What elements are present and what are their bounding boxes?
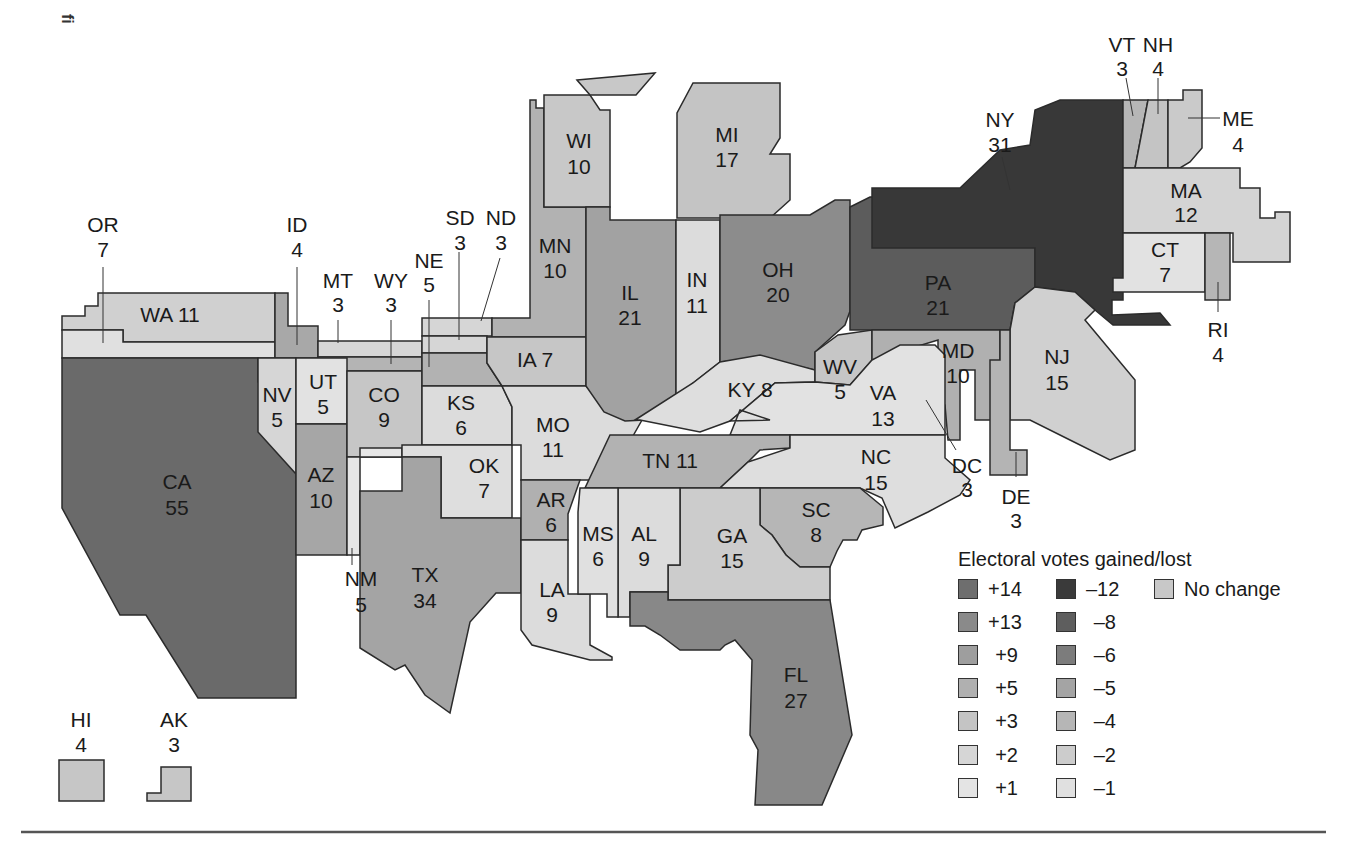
legend-grid: +14 +13 +9 +5 +3 +2 +1 –12 –8 –6 –5 –4 –… [958,577,1318,807]
svg-text:5: 5 [317,395,329,418]
svg-text:3: 3 [1116,57,1128,80]
svg-text:9: 9 [378,408,390,431]
svg-text:DE: DE [1001,485,1030,508]
svg-text:4: 4 [75,733,87,756]
legend-item-plus9: +9 [958,643,1018,667]
legend-swatch [958,612,978,632]
state-fl[interactable] [630,592,852,805]
legend-swatch [958,678,978,698]
svg-text:KS: KS [447,391,475,414]
svg-text:31: 31 [988,133,1011,156]
svg-text:3: 3 [454,231,466,254]
state-hi[interactable] [59,760,104,801]
legend-item-plus13: +13 [958,610,1022,634]
svg-text:15: 15 [1045,371,1068,394]
svg-text:15: 15 [720,549,743,572]
svg-text:15: 15 [864,471,887,494]
svg-text:ND: ND [486,206,516,229]
svg-text:VA: VA [870,381,896,404]
svg-text:6: 6 [545,513,557,536]
svg-text:3: 3 [1010,509,1022,532]
svg-text:IL: IL [621,281,639,304]
legend-item-minus4: –4 [1056,709,1116,733]
svg-text:4: 4 [1232,133,1244,156]
corner-mark: fi [59,14,76,24]
legend-item-minus6: –6 [1056,643,1116,667]
svg-text:MS: MS [582,522,614,545]
svg-text:17: 17 [715,148,738,171]
svg-text:6: 6 [592,547,604,570]
svg-text:5: 5 [355,593,367,616]
svg-text:FL: FL [784,663,809,686]
legend-swatch [1056,612,1076,632]
svg-text:6: 6 [455,416,467,439]
state-sd[interactable] [422,336,487,353]
svg-text:AR: AR [536,488,565,511]
svg-text:NV: NV [262,383,291,406]
svg-text:AL: AL [631,522,657,545]
state-ak[interactable] [147,767,191,801]
svg-text:AK: AK [160,708,188,731]
state-me[interactable] [1168,90,1202,168]
svg-text:TN 11: TN 11 [642,449,698,472]
legend-swatch [958,711,978,731]
svg-text:21: 21 [618,306,641,329]
legend-title: Electoral votes gained/lost [958,548,1318,571]
leader-nd [481,258,500,321]
legend-item-minus8: –8 [1056,610,1116,634]
svg-text:HI: HI [71,708,92,731]
legend-item-no-change: No change [1154,577,1281,601]
svg-text:7: 7 [97,238,109,261]
svg-text:OH: OH [762,258,794,281]
legend-item-plus14: +14 [958,577,1022,601]
svg-text:3: 3 [961,478,973,501]
svg-text:7: 7 [478,479,490,502]
svg-text:IA 7: IA 7 [517,348,553,371]
svg-text:55: 55 [165,496,188,519]
legend-swatch [1056,778,1076,798]
svg-text:MD: MD [942,339,975,362]
svg-text:9: 9 [546,603,558,626]
legend-swatch [958,579,978,599]
legend-item-minus1: –1 [1056,776,1116,800]
svg-text:4: 4 [1152,57,1164,80]
svg-text:9: 9 [638,547,650,570]
svg-text:ID: ID [287,213,308,236]
svg-text:NY: NY [985,108,1014,131]
state-nj[interactable] [1010,287,1135,460]
legend-swatch [958,645,978,665]
svg-text:NM: NM [345,567,378,590]
svg-text:5: 5 [271,408,283,431]
svg-text:KY 8: KY 8 [727,378,772,401]
svg-text:21: 21 [926,296,949,319]
legend-item-minus2: –2 [1056,743,1116,767]
svg-text:DC: DC [952,454,982,477]
svg-text:WY: WY [374,269,408,292]
legend-item-minus5: –5 [1056,676,1116,700]
svg-text:13: 13 [871,407,894,430]
svg-text:SC: SC [801,498,830,521]
svg-text:20: 20 [766,283,789,306]
svg-text:MT: MT [323,269,353,292]
svg-text:OR: OR [87,213,119,236]
legend-swatch [1056,645,1076,665]
svg-text:5: 5 [834,380,846,403]
legend-item-minus12: –12 [1056,577,1119,601]
legend-swatch [958,745,978,765]
svg-text:TX: TX [412,563,439,586]
state-mi-up[interactable] [577,73,655,95]
state-mt[interactable] [318,341,422,357]
svg-text:VT: VT [1109,33,1136,56]
svg-text:OK: OK [469,454,499,477]
svg-text:WA 11: WA 11 [140,303,200,326]
svg-text:3: 3 [168,733,180,756]
svg-text:IN: IN [687,268,708,291]
legend-item-plus3: +3 [958,709,1018,733]
svg-text:NC: NC [861,445,891,468]
svg-text:NH: NH [1143,33,1173,56]
svg-text:12: 12 [1174,203,1197,226]
svg-text:4: 4 [1212,343,1224,366]
svg-text:MN: MN [539,234,572,257]
svg-text:GA: GA [717,524,747,547]
svg-text:WV: WV [823,355,857,378]
